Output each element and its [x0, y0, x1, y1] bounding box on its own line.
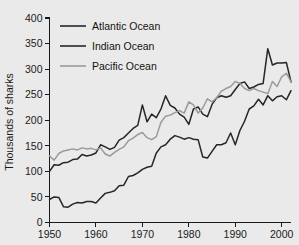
x-tick-label: 1990: [224, 228, 248, 240]
y-tick-label: 100: [25, 165, 43, 177]
y-tick-label: 0: [37, 216, 43, 228]
chart-background: [0, 0, 299, 245]
y-tick-label: 300: [25, 63, 43, 75]
y-tick-label: 250: [25, 88, 43, 100]
x-tick-label: 2000: [270, 228, 294, 240]
chart-container: 050100150200250300350400 195019601970198…: [0, 0, 299, 245]
y-tick-label: 200: [25, 114, 43, 126]
y-tick-label: 400: [25, 12, 43, 24]
legend-label-indian-ocean: Indian Ocean: [92, 40, 155, 52]
shark-catch-line-chart: 050100150200250300350400 195019601970198…: [0, 0, 299, 245]
y-tick-label: 150: [25, 140, 43, 152]
y-tick-label: 350: [25, 37, 43, 49]
y-axis-title: Thousands of sharks: [3, 73, 15, 170]
legend-label-pacific-ocean: Pacific Ocean: [92, 60, 157, 72]
y-tick-label: 50: [31, 191, 43, 203]
x-tick-label: 1970: [131, 228, 155, 240]
x-tick-label: 1960: [84, 228, 108, 240]
legend-label-atlantic-ocean: Atlantic Ocean: [92, 20, 160, 32]
x-tick-label: 1980: [177, 228, 201, 240]
x-tick-label: 1950: [38, 228, 62, 240]
